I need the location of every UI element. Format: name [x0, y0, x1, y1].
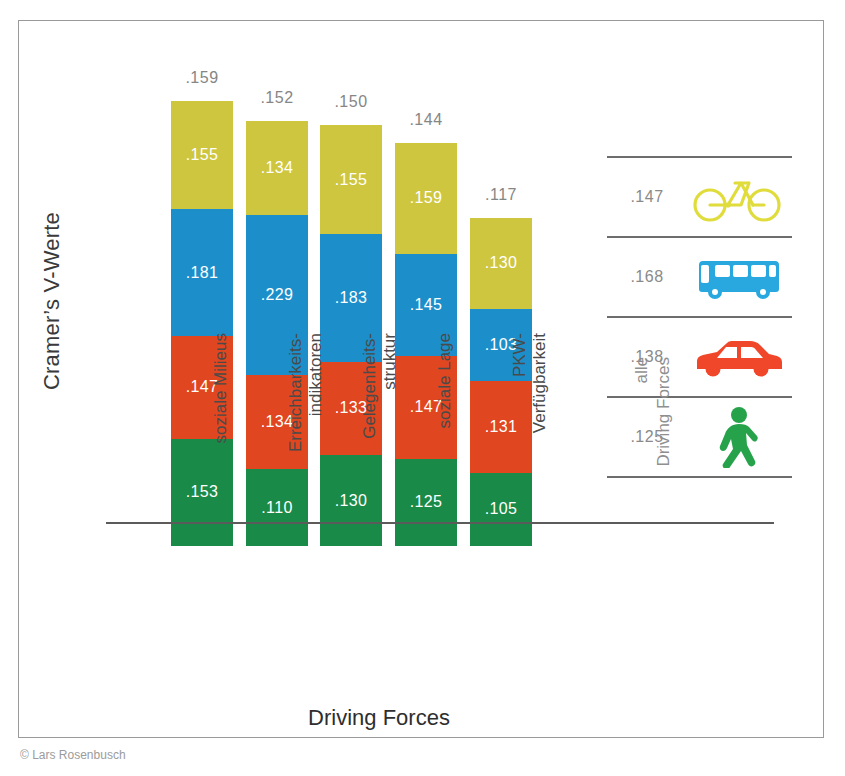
bus-icon [687, 245, 787, 309]
figure-caption: © Lars Rosenbusch [20, 748, 126, 762]
bar-total-label: .117 [470, 186, 532, 204]
bar-segment[interactable]: .155 [171, 101, 233, 210]
x-axis-title: Driving Forces [169, 705, 589, 731]
bar-segment[interactable]: .181 [171, 209, 233, 336]
y-axis-title: Cramer’s V-Werte [39, 151, 65, 451]
x-tick-label: soziale Lage [435, 333, 455, 533]
x-tick-line1: PKW- [510, 333, 529, 377]
figure-frame: Cramer’s V-Werte .155.181.147.153.159.13… [18, 20, 824, 738]
x-tick-label: PKW-Verfügbarkeit [510, 333, 550, 533]
legend-value: .147 [607, 188, 687, 206]
x-tick-line1: Erreichbarkeits- [286, 333, 305, 452]
x-tick-line1: soziale Lage [435, 333, 454, 428]
x-tick-label: soziale Milieus [211, 333, 231, 533]
legend-axis-label: alle Driving Forces [631, 357, 675, 557]
x-tick-label: Gelegenheits-struktur [360, 333, 400, 533]
pedestrian-icon [687, 405, 787, 469]
bar-total-label: .152 [246, 89, 308, 107]
x-tick-line2: Verfügbarkeit [530, 333, 550, 533]
x-tick-line2: struktur [380, 333, 400, 533]
bar-segment[interactable]: .155 [320, 125, 382, 234]
legend-row[interactable]: .147 [607, 158, 792, 236]
legend-value: .168 [607, 268, 687, 286]
bar-total-label: .150 [320, 93, 382, 111]
bar-segment[interactable]: .134 [246, 121, 308, 215]
car-icon [687, 325, 787, 389]
bar-segment[interactable]: .159 [395, 143, 457, 254]
legend-axis-label-line2: Driving Forces [653, 357, 675, 557]
bar-total-label: .144 [395, 111, 457, 129]
bar-segment[interactable]: .130 [470, 218, 532, 309]
x-tick-line1: Gelegenheits- [360, 333, 379, 439]
legend-axis-label-line1: alle [632, 357, 651, 383]
legend-row[interactable]: .168 [607, 238, 792, 316]
bicycle-icon [687, 165, 787, 229]
x-tick-line1: soziale Milieus [211, 333, 230, 444]
x-tick-line2: indikatoren [306, 333, 326, 533]
x-tick-label: Erreichbarkeits-indikatoren [286, 333, 326, 533]
bar-total-label: .159 [171, 69, 233, 87]
